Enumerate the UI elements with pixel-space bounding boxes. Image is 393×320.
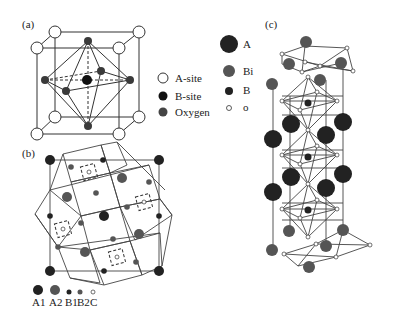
legend-c: A Bi B o — [220, 35, 253, 113]
panel-c-label: (c) — [265, 18, 278, 31]
legend-a-site: A-site — [175, 72, 202, 84]
panel-b: (b) — [22, 142, 172, 308]
o-legend-icon — [227, 106, 232, 111]
b2-legend-icon — [78, 290, 83, 295]
bi-legend-icon — [223, 65, 235, 77]
a2-legend-icon — [50, 285, 60, 295]
legend-a: A-site B-site Oxygen — [158, 72, 210, 118]
a-site-legend-icon — [158, 73, 168, 83]
legend-b-c: C — [90, 296, 97, 308]
legend-b-a2: A2 — [49, 296, 62, 308]
cube-front-face — [37, 48, 119, 134]
legend-c-a: A — [243, 38, 251, 50]
panel-a-label: (a) — [22, 18, 35, 31]
legend-b-b1: B1 — [65, 296, 78, 308]
b-atoms — [305, 100, 312, 214]
legend-c-b: B — [243, 84, 250, 96]
b-legend-icon — [225, 87, 233, 95]
c-legend-icon — [91, 290, 95, 294]
panel-c: (c) — [264, 18, 372, 273]
a1-atoms — [45, 155, 164, 276]
b1-legend-icon — [67, 290, 72, 295]
legend-b-site: B-site — [175, 90, 201, 102]
legend-c-bi: Bi — [243, 65, 253, 77]
oxygen-legend-icon — [159, 108, 168, 117]
legend-b-a1: A1 — [32, 296, 45, 308]
legend-b-b2: B2 — [77, 296, 90, 308]
b-site-atom — [82, 75, 92, 85]
figure-canvas: (a) — [0, 0, 393, 320]
a1-legend-icon — [33, 285, 43, 295]
legend-c-o: o — [243, 101, 249, 113]
legend-b: A1 A2 B1 B2 C — [32, 285, 97, 308]
legend-oxygen: Oxygen — [175, 106, 210, 118]
a-legend-icon — [220, 35, 238, 53]
panel-a: (a) — [22, 18, 210, 140]
panel-b-label: (b) — [22, 147, 35, 160]
b-site-legend-icon — [159, 92, 168, 101]
